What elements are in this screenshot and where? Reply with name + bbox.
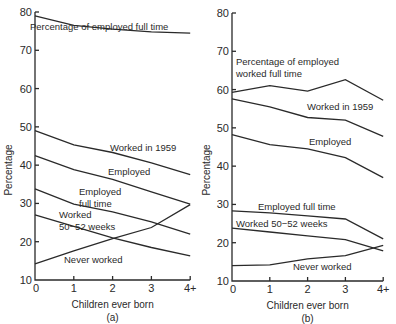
figure: 102030405060708001234+Children ever born… [0,0,396,324]
x-axis-title: Children ever born [71,299,153,310]
series-label: Employed [79,186,121,197]
y-tick-label: 30 [217,198,229,210]
series-label: Worked in 1959 [110,142,176,153]
y-tick-label: 80 [20,6,32,18]
y-tick-label: 10 [217,275,229,287]
series-line-0 [232,80,383,101]
x-tick-label: 3 [342,283,348,295]
series-label: Percentage of employed full time [30,21,168,32]
series-label: Employed [309,136,351,147]
series-label: Percentage of employed [236,56,339,67]
x-tick-label: 0 [230,283,236,295]
series-label: worked full time [235,68,302,79]
x-tick-label: 2 [305,283,311,295]
y-axis-title: Percentage [201,144,212,196]
series-label: full time [79,198,112,209]
y-tick-label: 60 [217,84,229,96]
x-tick-label: 4+ [184,282,197,294]
series-label: Worked [59,209,92,220]
series-line-2 [232,135,383,178]
y-tick-label: 60 [20,83,32,95]
axes [232,13,383,281]
series-label: Worked 50−52 weeks [236,218,328,229]
x-tick-label: 3 [148,282,154,294]
y-tick-label: 70 [217,45,229,57]
series-label: Never worked [64,254,123,265]
y-tick-label: 20 [217,237,229,249]
panel-label: (a) [106,312,118,323]
y-axis-title: Percentage [3,144,14,196]
y-tick-label: 30 [20,197,32,209]
series-label: Worked in 1959 [307,101,373,112]
x-tick-label: 0 [33,282,39,294]
chart-panel-1: 102030405060708001234+Children ever born… [201,7,389,324]
series-label: 50−52 weeks [59,221,115,232]
series-label: Employed [108,166,150,177]
x-tick-label: 1 [71,282,77,294]
panel-label: (b) [301,313,313,324]
y-tick-label: 40 [217,160,229,172]
y-tick-label: 80 [217,7,229,19]
x-axis-title: Children ever born [266,300,348,311]
y-tick-label: 40 [20,159,32,171]
series-label: Employed full time [258,201,336,212]
line-chart-figure: 102030405060708001234+Children ever born… [0,0,396,324]
y-tick-label: 50 [20,121,32,133]
x-tick-label: 2 [110,282,116,294]
x-tick-label: 4+ [377,283,390,295]
chart-panel-0: 102030405060708001234+Children ever born… [3,6,196,323]
y-tick-label: 50 [217,122,229,134]
y-tick-label: 20 [20,236,32,248]
x-tick-label: 1 [267,283,273,295]
y-tick-label: 70 [20,44,32,56]
series-line-4 [232,228,383,251]
series-label: Never worked [293,261,352,272]
y-tick-label: 10 [20,274,32,286]
